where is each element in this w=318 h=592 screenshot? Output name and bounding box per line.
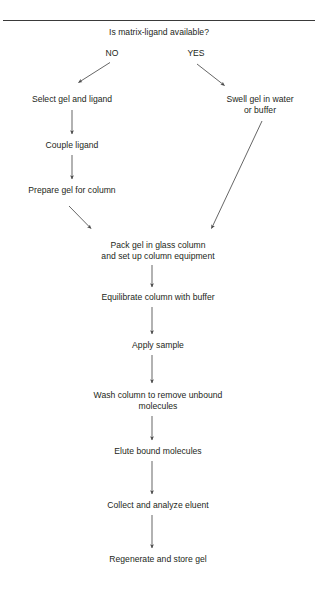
flowchart-connectors — [0, 0, 318, 592]
flowchart-figure: Is matrix-ligand available? NO YES Selec… — [0, 0, 318, 592]
arrow-swell-to-pack — [212, 121, 263, 229]
arrow-prepare-to-pack — [69, 206, 91, 229]
arrow-yes-branch — [197, 64, 225, 86]
arrow-no-branch — [79, 63, 111, 83]
